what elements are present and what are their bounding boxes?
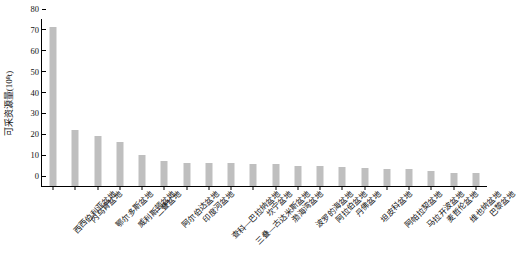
bar xyxy=(383,169,390,186)
bar-slot xyxy=(265,19,287,186)
y-axis-tick: 50 xyxy=(31,67,43,77)
bar xyxy=(116,142,123,186)
y-axis-tick: 10 xyxy=(31,150,43,160)
y-axis-tick: 40 xyxy=(31,88,43,98)
y-axis-tick-label: 0 xyxy=(35,171,42,181)
y-axis-tick-label: 60 xyxy=(31,46,43,56)
bar xyxy=(94,136,101,186)
bar-slot xyxy=(153,19,175,186)
bar-slot xyxy=(198,19,220,186)
bar-slot xyxy=(64,19,86,186)
x-axis-tick-mark xyxy=(186,186,187,190)
x-axis-tick-mark xyxy=(342,186,343,190)
y-axis-tick: 30 xyxy=(31,108,43,118)
x-axis-tick-mark xyxy=(475,186,476,190)
bar-slot xyxy=(376,19,398,186)
y-axis-tick: 20 xyxy=(31,129,43,139)
bar xyxy=(50,27,57,186)
x-axis-tick-mark xyxy=(253,186,254,190)
bar xyxy=(294,166,301,186)
y-axis-tick-label: 80 xyxy=(31,4,43,14)
bar-slot xyxy=(87,19,109,186)
x-axis-tick-mark xyxy=(453,186,454,190)
bar-slot xyxy=(398,19,420,186)
bar-slot xyxy=(309,19,331,186)
bar xyxy=(361,168,368,186)
x-axis-tick-mark xyxy=(75,186,76,190)
x-axis-tick-mark xyxy=(119,186,120,190)
y-axis-tick-label: 20 xyxy=(31,129,43,139)
plot-area: 01020304050607080 xyxy=(41,19,487,187)
bar xyxy=(339,167,346,186)
bar-slot xyxy=(443,19,465,186)
x-axis-tick-mark xyxy=(164,186,165,190)
y-axis-tick-label: 10 xyxy=(31,150,43,160)
x-axis-tick-mark xyxy=(231,186,232,190)
bar xyxy=(450,173,457,186)
bar xyxy=(161,161,168,186)
y-axis-tick: 80 xyxy=(31,4,43,14)
bar-slot xyxy=(465,19,487,186)
y-axis-tick-label: 40 xyxy=(31,88,43,98)
bar xyxy=(228,163,235,186)
bar xyxy=(472,173,479,186)
x-axis-tick-mark xyxy=(320,186,321,190)
x-axis-tick-mark xyxy=(431,186,432,190)
y-axis-title: 可采资源量(10⁸t) xyxy=(3,70,16,136)
x-axis-tick-mark xyxy=(297,186,298,190)
x-axis-tick-mark xyxy=(97,186,98,190)
y-axis-tick-mark xyxy=(42,9,46,10)
bar-slot xyxy=(42,19,64,186)
bar-slot xyxy=(331,19,353,186)
bar xyxy=(406,169,413,186)
bar xyxy=(205,163,212,186)
bar xyxy=(72,130,79,186)
bar xyxy=(317,166,324,186)
bar-slot xyxy=(242,19,264,186)
bar xyxy=(250,164,257,186)
y-axis-tick: 70 xyxy=(31,25,43,35)
x-axis-tick-mark xyxy=(364,186,365,190)
y-axis-tick: 60 xyxy=(31,46,43,56)
bar-series xyxy=(42,19,487,186)
bar-slot xyxy=(220,19,242,186)
y-axis-tick-label: 30 xyxy=(31,108,43,118)
bar xyxy=(272,164,279,186)
x-axis-tick-mark xyxy=(409,186,410,190)
y-axis-tick-label: 50 xyxy=(31,67,43,77)
bar-slot xyxy=(287,19,309,186)
y-axis-tick: 0 xyxy=(35,171,42,181)
bar xyxy=(183,163,190,186)
bar-slot xyxy=(176,19,198,186)
x-axis-tick-mark xyxy=(53,186,54,190)
bar xyxy=(428,171,435,186)
bar xyxy=(139,155,146,186)
x-axis-tick-mark xyxy=(208,186,209,190)
x-axis-tick-mark xyxy=(386,186,387,190)
bar-slot xyxy=(420,19,442,186)
y-axis-title-container: 可采资源量(10⁸t) xyxy=(0,18,18,188)
bar-slot xyxy=(354,19,376,186)
x-axis-tick-mark xyxy=(142,186,143,190)
bar-slot xyxy=(109,19,131,186)
bar-slot xyxy=(131,19,153,186)
y-axis-tick-label: 70 xyxy=(31,25,43,35)
